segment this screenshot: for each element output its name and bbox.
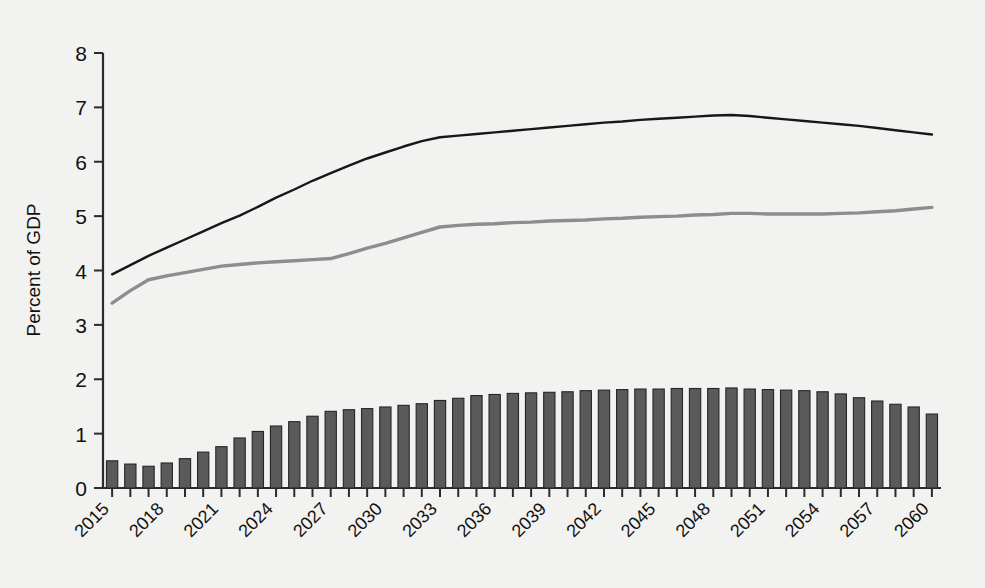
bar	[398, 405, 409, 488]
bar	[525, 393, 536, 488]
y-tick-label: 3	[75, 314, 87, 337]
bar	[216, 447, 227, 488]
bar	[289, 422, 300, 488]
y-tick-label: 5	[75, 205, 87, 228]
bar	[325, 411, 336, 488]
bar	[853, 398, 864, 488]
y-axis-label: Percent of GDP	[23, 203, 44, 336]
x-tick-label: 2036	[453, 499, 495, 541]
chart-canvas: Percent of GDP 012345678 201520182021202…	[0, 0, 985, 588]
bar	[252, 431, 263, 488]
x-tick-label: 2060	[890, 499, 932, 541]
bar	[453, 398, 464, 488]
bar	[562, 392, 573, 488]
y-tick-label: 1	[75, 423, 87, 446]
x-tick-label: 2045	[617, 499, 659, 541]
line-series-revenue	[112, 207, 932, 303]
bar	[489, 394, 500, 488]
y-tick-label: 2	[75, 368, 87, 391]
bar	[762, 390, 773, 488]
x-tick-label: 2021	[180, 499, 222, 541]
y-tick-label: 8	[75, 42, 87, 65]
y-tick-label: 0	[75, 477, 87, 500]
bar	[817, 392, 828, 488]
bar	[580, 391, 591, 488]
bar	[835, 394, 846, 488]
x-tick-label: 2027	[289, 499, 331, 541]
bar	[416, 404, 427, 488]
chart-figure: Percent of GDP 012345678 201520182021202…	[0, 0, 985, 588]
x-tick-label: 2042	[562, 499, 604, 541]
x-tick-label: 2033	[398, 499, 440, 541]
x-tick-label: 2048	[672, 499, 714, 541]
bar	[380, 407, 391, 488]
bar	[179, 459, 190, 488]
bar	[781, 390, 792, 488]
y-tick-label: 4	[75, 260, 87, 283]
x-tick-label: 2030	[344, 499, 386, 541]
bar	[161, 463, 172, 488]
y-tick-label: 7	[75, 96, 87, 119]
bar	[307, 416, 318, 488]
bar	[908, 407, 919, 488]
x-tick-label: 2018	[125, 499, 167, 541]
bar	[507, 393, 518, 488]
x-tick-label: 2015	[70, 499, 112, 541]
axis-lines	[103, 53, 941, 488]
x-tick-label: 2051	[726, 499, 768, 541]
bar	[434, 400, 445, 488]
bar	[544, 392, 555, 488]
x-tick-label: 2057	[836, 499, 878, 541]
y-tick-label: 6	[75, 151, 87, 174]
bar	[726, 388, 737, 488]
bar	[689, 388, 700, 488]
y-axis-ticks: 012345678	[75, 42, 103, 500]
bar	[926, 414, 937, 488]
bar	[635, 389, 646, 488]
bar	[744, 389, 755, 488]
bar	[106, 461, 117, 488]
x-axis-ticks	[112, 488, 932, 497]
bar	[343, 410, 354, 488]
bar	[143, 466, 154, 488]
x-axis-tick-labels: 2015201820212024202720302033203620392042…	[70, 499, 932, 541]
bar	[653, 389, 664, 488]
y-axis-label-text: Percent of GDP	[23, 203, 44, 336]
bar	[671, 388, 682, 488]
line-series-expenditure	[112, 115, 932, 274]
bar	[617, 390, 628, 488]
bar	[598, 390, 609, 488]
bar	[890, 404, 901, 488]
bar	[708, 388, 719, 488]
bar	[234, 438, 245, 488]
x-tick-label: 2024	[234, 499, 276, 541]
bar	[198, 452, 209, 488]
bar	[799, 391, 810, 488]
bar-series-balance	[106, 388, 937, 488]
bar	[125, 464, 136, 488]
bar	[471, 396, 482, 488]
x-tick-label: 2039	[508, 499, 550, 541]
x-tick-label: 2054	[781, 499, 823, 541]
bar	[362, 409, 373, 488]
bar	[270, 426, 281, 488]
bar	[872, 401, 883, 488]
